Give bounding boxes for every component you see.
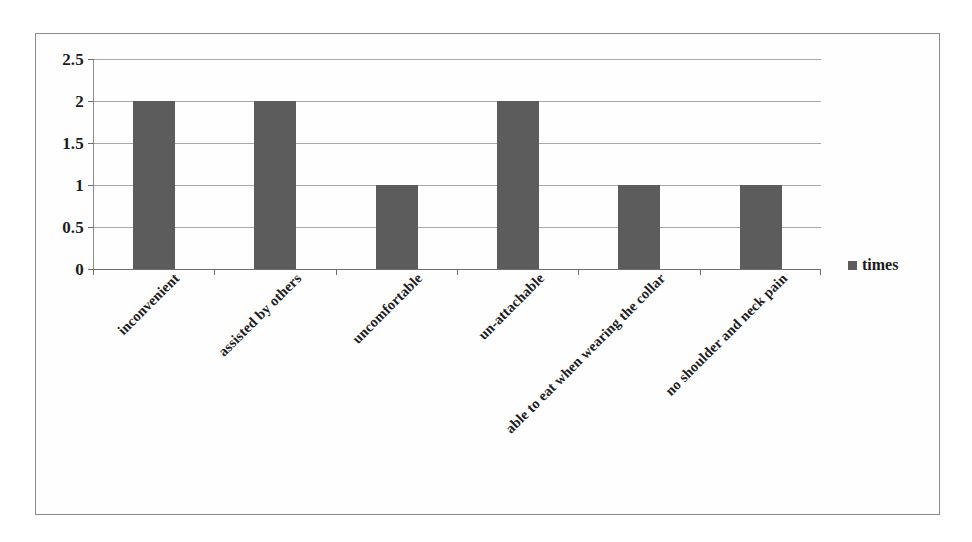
x-axis-tick-label-no-shoulder-and-neck-pain: no shoulder and neck pain	[662, 270, 791, 399]
bar-able-to-eat-when-wearing-the-collar[interactable]	[618, 185, 660, 269]
bars-layer	[93, 59, 821, 269]
bar-no-shoulder-and-neck-pain[interactable]	[740, 185, 782, 269]
bar-assisted-by-others[interactable]	[254, 101, 296, 269]
x-axis-tick-label-inconvenient: inconvenient	[114, 270, 183, 339]
figure-frame: 2.5 2 1.5 1 0.5 0	[35, 33, 940, 515]
bar-inconvenient[interactable]	[133, 101, 175, 269]
y-axis-tick-label-1: 1	[75, 176, 84, 196]
legend-item-label-times: times	[862, 256, 898, 274]
y-axis-tick-label-2: 2	[75, 92, 84, 112]
bar-chart: 2.5 2 1.5 1 0.5 0	[36, 34, 941, 516]
y-axis-tick-label-2.5: 2.5	[62, 50, 84, 70]
y-axis-tick-label-0: 0	[75, 260, 84, 280]
square-marker-icon	[848, 261, 857, 270]
y-axis-tick-label-1.5: 1.5	[62, 134, 84, 154]
legend: times	[848, 256, 898, 274]
x-axis-tick-label-un-attachable: un-attachable	[475, 270, 548, 343]
y-axis-labels: 2.5 2 1.5 1 0.5 0	[36, 59, 84, 269]
bar-uncomfortable[interactable]	[376, 185, 418, 269]
bar-un-attachable[interactable]	[497, 101, 539, 269]
x-axis-tick-label-assisted-by-others: assisted by others	[215, 270, 305, 360]
x-axis-tick-label-uncomfortable: uncomfortable	[349, 270, 426, 347]
x-axis-labels: inconvenient assisted by others uncomfor…	[93, 270, 821, 470]
y-axis-tick-label-0.5: 0.5	[62, 218, 84, 238]
